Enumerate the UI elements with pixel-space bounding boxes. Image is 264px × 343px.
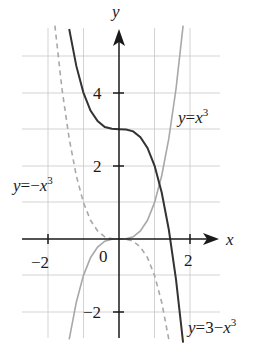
cubic-graph: x y −2 0 2 4 2 −2 y=x3 y=−x3 y=3−x3 <box>0 0 264 343</box>
x-tick-label: 0 <box>99 247 108 266</box>
x-tick-label: 2 <box>184 251 193 270</box>
y-tick-label: 2 <box>93 157 102 176</box>
y-axis-label: y <box>110 2 120 21</box>
label-y-equals-3-minus-x-cubed: y=3−x3 <box>186 316 237 337</box>
y-tick-label: −2 <box>83 303 101 322</box>
curve-y-equals-3-minus-x-cubed <box>69 29 183 343</box>
x-tick-label: −2 <box>31 253 49 272</box>
y-tick-label: 4 <box>93 84 102 103</box>
curve-y-equals-x-cubed <box>69 26 183 340</box>
label-y-equals-neg-x-cubed: y=−x3 <box>11 174 53 195</box>
x-axis-label: x <box>225 230 234 249</box>
axes <box>22 40 210 338</box>
curve-y-equals-neg-x-cubed <box>55 26 169 340</box>
label-y-equals-x-cubed: y=x3 <box>176 106 209 127</box>
